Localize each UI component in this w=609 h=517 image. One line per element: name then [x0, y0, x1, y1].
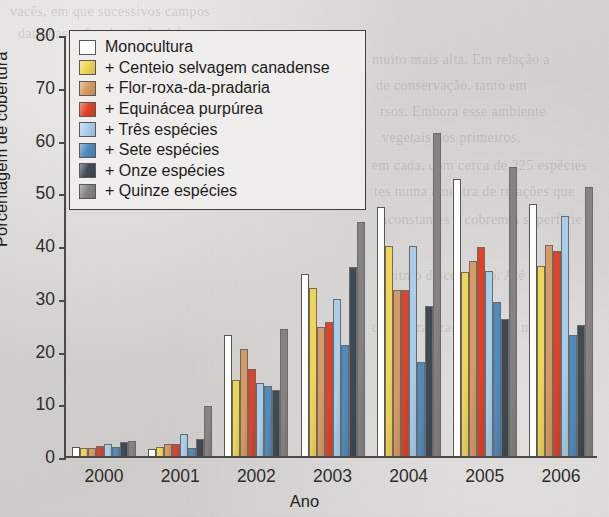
bar[interactable]	[72, 447, 80, 456]
bar[interactable]	[248, 369, 256, 456]
legend-item[interactable]: + Equinácea purpúrea	[79, 99, 356, 120]
x-axis-tick-label: 2000	[85, 466, 124, 487]
bar[interactable]	[545, 245, 553, 456]
bar[interactable]	[104, 444, 112, 456]
bar[interactable]	[569, 335, 577, 456]
bar[interactable]	[164, 444, 172, 456]
y-axis-tick	[59, 405, 66, 407]
bar[interactable]	[96, 446, 104, 456]
bar[interactable]	[509, 167, 517, 456]
y-axis-tick-label: 70	[36, 78, 55, 99]
bar[interactable]	[577, 325, 585, 456]
bar[interactable]	[224, 335, 232, 456]
bar[interactable]	[537, 266, 545, 456]
legend-label: + Onze espécies	[105, 163, 225, 179]
bar[interactable]	[477, 247, 485, 456]
y-axis-tick-label: 10	[36, 394, 55, 415]
legend-item[interactable]: + Centeio selvagem canadense	[79, 58, 356, 79]
y-axis-tick-label: 80	[36, 25, 55, 46]
legend-item[interactable]: + Três espécies	[79, 119, 356, 140]
bar[interactable]	[553, 251, 561, 456]
bar[interactable]	[172, 444, 180, 456]
bar[interactable]	[393, 290, 401, 456]
x-axis-tick-label: 2002	[237, 466, 276, 487]
bar[interactable]	[585, 187, 593, 456]
bar[interactable]	[501, 319, 509, 456]
y-axis-tick-label: 30	[36, 289, 55, 310]
y-axis-tick-label: 40	[36, 236, 55, 257]
bar[interactable]	[188, 448, 196, 456]
legend-item[interactable]: Monocultura	[79, 37, 356, 58]
bar[interactable]	[493, 302, 501, 456]
bar[interactable]	[240, 349, 248, 456]
bar[interactable]	[128, 441, 136, 456]
legend-label: + Equinácea purpúrea	[105, 101, 263, 117]
bar[interactable]	[349, 267, 357, 456]
legend-item[interactable]: + Quinze espécies	[79, 181, 356, 202]
x-axis-tick-label: 2003	[313, 466, 352, 487]
bar[interactable]	[377, 207, 385, 456]
y-axis-tick	[59, 300, 66, 302]
legend-label: + Três espécies	[105, 122, 218, 138]
legend-item[interactable]: + Onze espécies	[79, 161, 356, 182]
bar[interactable]	[469, 261, 477, 456]
bar[interactable]	[256, 383, 264, 456]
x-axis-tick-label: 2005	[465, 466, 504, 487]
bar[interactable]	[280, 329, 288, 456]
bar[interactable]	[485, 271, 493, 456]
bar[interactable]	[180, 434, 188, 456]
bar[interactable]	[232, 380, 240, 456]
bar[interactable]	[301, 274, 309, 456]
bar[interactable]	[417, 362, 425, 456]
bar[interactable]	[357, 222, 365, 456]
bar[interactable]	[433, 133, 441, 456]
x-axis-tick-label: 2001	[161, 466, 200, 487]
bar[interactable]	[333, 299, 341, 456]
legend-item[interactable]: + Sete espécies	[79, 140, 356, 161]
x-axis-tick-label: 2006	[541, 466, 580, 487]
bar[interactable]	[425, 306, 433, 456]
legend-label: + Sete espécies	[105, 142, 219, 158]
bar[interactable]	[453, 179, 461, 456]
bar[interactable]	[325, 322, 333, 457]
bar[interactable]	[196, 439, 204, 456]
bar[interactable]	[80, 448, 88, 456]
bar[interactable]	[156, 447, 164, 456]
legend-swatch-icon	[79, 81, 96, 96]
legend-label: Monocultura	[105, 39, 193, 55]
legend-swatch-icon	[79, 40, 96, 55]
y-axis-tick	[59, 36, 66, 38]
bar[interactable]	[401, 290, 409, 456]
bar[interactable]	[341, 345, 349, 456]
y-axis-tick	[59, 353, 66, 355]
bar[interactable]	[120, 442, 128, 456]
bar[interactable]	[148, 449, 156, 456]
bar[interactable]	[112, 447, 120, 456]
y-axis-tick-label: 50	[36, 183, 55, 204]
bar-chart: Porcentagem de cobertura Ano 01020304050…	[0, 0, 609, 517]
bar[interactable]	[385, 246, 393, 456]
legend-swatch-icon	[79, 163, 96, 178]
bar-group-2006: 2006	[529, 36, 593, 456]
y-axis-tick	[59, 142, 66, 144]
bar[interactable]	[272, 390, 280, 456]
bar[interactable]	[529, 204, 537, 456]
legend-label: + Centeio selvagem canadense	[105, 60, 330, 76]
legend-swatch-icon	[79, 122, 96, 137]
legend-item[interactable]: + Flor-roxa-da-pradaria	[79, 78, 356, 99]
bar[interactable]	[88, 448, 96, 456]
bar[interactable]	[309, 288, 317, 456]
y-axis-tick	[59, 458, 66, 460]
bar[interactable]	[317, 327, 325, 456]
legend-label: + Flor-roxa-da-pradaria	[105, 80, 270, 96]
y-axis-tick	[59, 247, 66, 249]
legend-swatch-icon	[79, 143, 96, 158]
bar[interactable]	[461, 272, 469, 456]
bar[interactable]	[409, 246, 417, 456]
y-axis-tick-label: 20	[36, 342, 55, 363]
y-axis-tick	[59, 194, 66, 196]
y-axis-tick	[59, 89, 66, 91]
bar[interactable]	[561, 216, 569, 456]
bar[interactable]	[264, 386, 272, 456]
bar[interactable]	[204, 406, 212, 456]
